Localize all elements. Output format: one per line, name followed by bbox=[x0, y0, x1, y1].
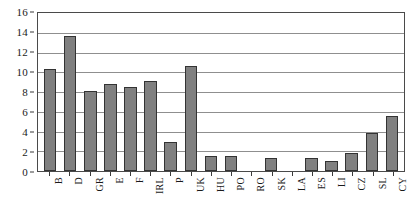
x-tick-slot bbox=[261, 172, 281, 176]
x-axis-ticks bbox=[37, 172, 405, 176]
plot-area bbox=[37, 12, 405, 172]
x-tick-mark bbox=[211, 172, 212, 176]
x-label-slot: P bbox=[160, 177, 180, 215]
x-tick-mark bbox=[352, 172, 353, 176]
x-label-slot: F bbox=[120, 177, 140, 215]
bar-chart: 0246810121416 BDGREFIRLPUKHUPOROSKLAESLI… bbox=[0, 0, 419, 216]
y-tick-label: 12 bbox=[17, 47, 28, 58]
x-label-slot: HU bbox=[201, 177, 221, 215]
x-tick-slot bbox=[181, 172, 201, 176]
bar-slot bbox=[221, 13, 241, 171]
x-tick-slot bbox=[302, 172, 322, 176]
bar-slot bbox=[261, 13, 281, 171]
bar-slot bbox=[382, 13, 402, 171]
bar-es[interactable] bbox=[305, 158, 317, 171]
bar-slot bbox=[342, 13, 362, 171]
bar-slot bbox=[322, 13, 342, 171]
x-tick-slot bbox=[221, 172, 241, 176]
x-axis-labels: BDGREFIRLPUKHUPOROSKLAESLICZSLCY bbox=[37, 177, 405, 215]
y-tick-mark bbox=[30, 52, 34, 53]
x-label-slot: CZ bbox=[342, 177, 362, 215]
y-tick-mark bbox=[30, 32, 34, 33]
x-tick-mark bbox=[49, 172, 50, 176]
x-tick-slot bbox=[140, 172, 160, 176]
x-tick-mark bbox=[231, 172, 232, 176]
x-tick-mark bbox=[90, 172, 91, 176]
bar-slot bbox=[80, 13, 100, 171]
y-tick-label: 0 bbox=[22, 167, 28, 178]
y-axis: 0246810121416 bbox=[0, 0, 34, 216]
bar-li[interactable] bbox=[325, 161, 337, 171]
x-label-slot: SL bbox=[363, 177, 383, 215]
y-tick-label: 4 bbox=[22, 127, 28, 138]
x-tick-mark bbox=[332, 172, 333, 176]
bar-slot bbox=[362, 13, 382, 171]
y-tick-label: 2 bbox=[22, 147, 28, 158]
x-tick-mark bbox=[150, 172, 151, 176]
x-tick-slot bbox=[120, 172, 140, 176]
x-tick-slot bbox=[241, 172, 261, 176]
x-tick-slot bbox=[160, 172, 180, 176]
x-label-slot: LI bbox=[322, 177, 342, 215]
bar-e[interactable] bbox=[104, 84, 116, 171]
x-label-slot: IRL bbox=[140, 177, 160, 215]
y-tick-label: 10 bbox=[17, 67, 28, 78]
x-tick-mark bbox=[292, 172, 293, 176]
bar-po[interactable] bbox=[225, 156, 237, 171]
y-tick-label: 16 bbox=[17, 7, 28, 18]
bars-layer bbox=[38, 13, 404, 171]
y-tick-label: 14 bbox=[17, 27, 28, 38]
bar-slot bbox=[40, 13, 60, 171]
bar-uk[interactable] bbox=[185, 66, 197, 171]
bar-slot bbox=[60, 13, 80, 171]
bar-b[interactable] bbox=[44, 69, 56, 171]
x-tick-slot bbox=[100, 172, 120, 176]
x-tick-mark bbox=[110, 172, 111, 176]
bar-slot bbox=[100, 13, 120, 171]
x-tick-slot bbox=[201, 172, 221, 176]
x-tick-slot bbox=[342, 172, 362, 176]
x-tick-mark bbox=[393, 172, 394, 176]
x-label-slot: PO bbox=[221, 177, 241, 215]
x-label-slot: LA bbox=[282, 177, 302, 215]
x-label-slot: SK bbox=[261, 177, 281, 215]
bar-f[interactable] bbox=[124, 87, 136, 171]
x-tick-slot bbox=[59, 172, 79, 176]
x-tick-mark bbox=[312, 172, 313, 176]
bar-sl[interactable] bbox=[366, 133, 378, 172]
bar-slot bbox=[141, 13, 161, 171]
bar-sk[interactable] bbox=[265, 158, 277, 171]
x-label-slot: E bbox=[100, 177, 120, 215]
y-tick-mark bbox=[30, 92, 34, 93]
y-tick-mark bbox=[30, 72, 34, 73]
bar-hu[interactable] bbox=[205, 156, 217, 171]
x-tick-label-cy: CY bbox=[398, 177, 408, 192]
bar-d[interactable] bbox=[64, 36, 76, 171]
bar-slot bbox=[120, 13, 140, 171]
x-label-slot: CY bbox=[383, 177, 403, 215]
bar-slot bbox=[301, 13, 321, 171]
x-tick-mark bbox=[272, 172, 273, 176]
x-label-slot: UK bbox=[181, 177, 201, 215]
bar-slot bbox=[181, 13, 201, 171]
bar-gr[interactable] bbox=[84, 91, 96, 171]
x-tick-mark bbox=[251, 172, 252, 176]
bar-slot bbox=[201, 13, 221, 171]
y-tick-mark bbox=[30, 112, 34, 113]
x-label-slot: RO bbox=[241, 177, 261, 215]
y-tick-mark bbox=[30, 12, 34, 13]
x-tick-slot bbox=[363, 172, 383, 176]
bar-cy[interactable] bbox=[386, 116, 398, 171]
x-tick-slot bbox=[39, 172, 59, 176]
x-label-slot: ES bbox=[302, 177, 322, 215]
bar-p[interactable] bbox=[164, 142, 176, 171]
bar-slot bbox=[161, 13, 181, 171]
x-label-slot: B bbox=[39, 177, 59, 215]
x-tick-mark bbox=[373, 172, 374, 176]
x-tick-slot bbox=[383, 172, 403, 176]
x-tick-mark bbox=[69, 172, 70, 176]
bar-irl[interactable] bbox=[144, 81, 156, 171]
bar-cz[interactable] bbox=[345, 153, 357, 171]
x-tick-slot bbox=[282, 172, 302, 176]
y-tick-label: 6 bbox=[22, 107, 28, 118]
